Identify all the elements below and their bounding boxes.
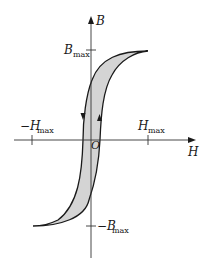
origin-label: O: [91, 139, 100, 152]
b-max-label: B max: [63, 43, 90, 59]
b-axis-arrow-icon: [88, 16, 94, 24]
svg-text:max: max: [73, 50, 90, 59]
svg-text:max: max: [37, 126, 54, 135]
hysteresis-diagram: B H O B max −B max −H max H max: [0, 0, 206, 261]
neg-b-max-label: −B max: [97, 219, 129, 235]
neg-h-max-label: −H max: [20, 119, 54, 135]
h-max-label: H max: [137, 119, 165, 135]
svg-text:max: max: [148, 126, 165, 135]
h-axis-arrow-icon: [188, 137, 196, 143]
b-axis-label: B: [95, 14, 105, 28]
svg-text:B: B: [63, 43, 73, 57]
svg-text:max: max: [112, 226, 129, 235]
h-axis-label: H: [187, 145, 199, 159]
